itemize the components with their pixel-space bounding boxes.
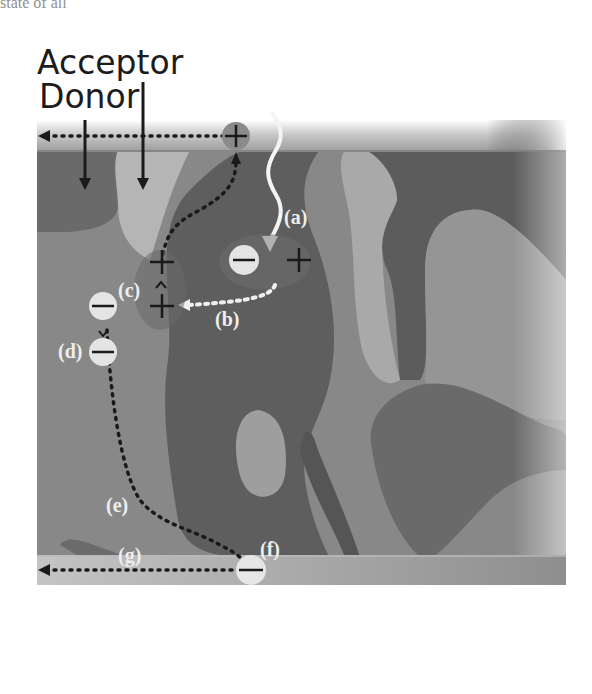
step-label-c: (c) — [118, 279, 140, 302]
step-label-d: (d) — [58, 340, 82, 363]
step-label-f: (f) — [260, 538, 280, 561]
step-label-b: (b) — [215, 308, 239, 331]
electron-charge-exciton — [229, 245, 259, 275]
acceptor-label: Acceptor — [37, 46, 183, 79]
step-label-a: (a) — [284, 206, 307, 229]
donor-label: Donor — [39, 80, 139, 113]
step-label-g: (g) — [118, 544, 141, 567]
step-label-e: (e) — [106, 494, 128, 517]
electron-charge-c — [89, 292, 117, 320]
organic-solar-cell-diagram: state of all — [0, 0, 592, 694]
electron-charge-d — [89, 338, 117, 366]
hole-charge-top-electrode — [222, 122, 250, 150]
